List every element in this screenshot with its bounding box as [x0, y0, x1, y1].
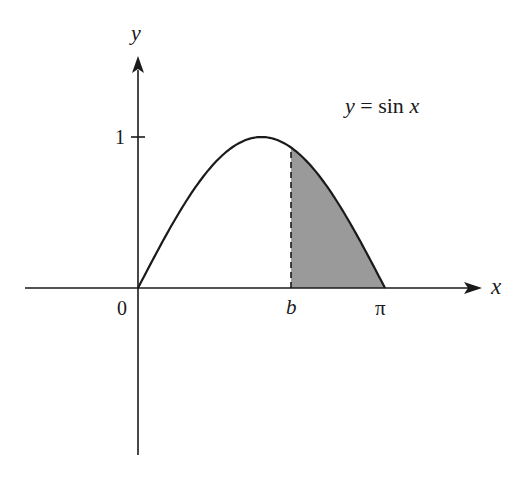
sine-area-diagram: y 1 0 b π x y = sin x [0, 0, 530, 482]
shaded-region [291, 148, 385, 289]
origin-label: 0 [117, 298, 127, 318]
curve-label: y = sin x [345, 95, 419, 117]
y-tick-label-1: 1 [115, 127, 125, 147]
curve-label-var: x [409, 93, 419, 118]
x-axis-label: x [491, 275, 501, 298]
curve-label-fn: sin [378, 93, 409, 118]
diagram-canvas [0, 0, 530, 482]
x-tick-label-pi: π [375, 298, 386, 319]
x-tick-label-b: b [286, 297, 297, 318]
y-axis-label: y [131, 22, 141, 44]
curve-label-lhs: y [345, 93, 355, 118]
curve-label-eq: = [355, 93, 378, 118]
